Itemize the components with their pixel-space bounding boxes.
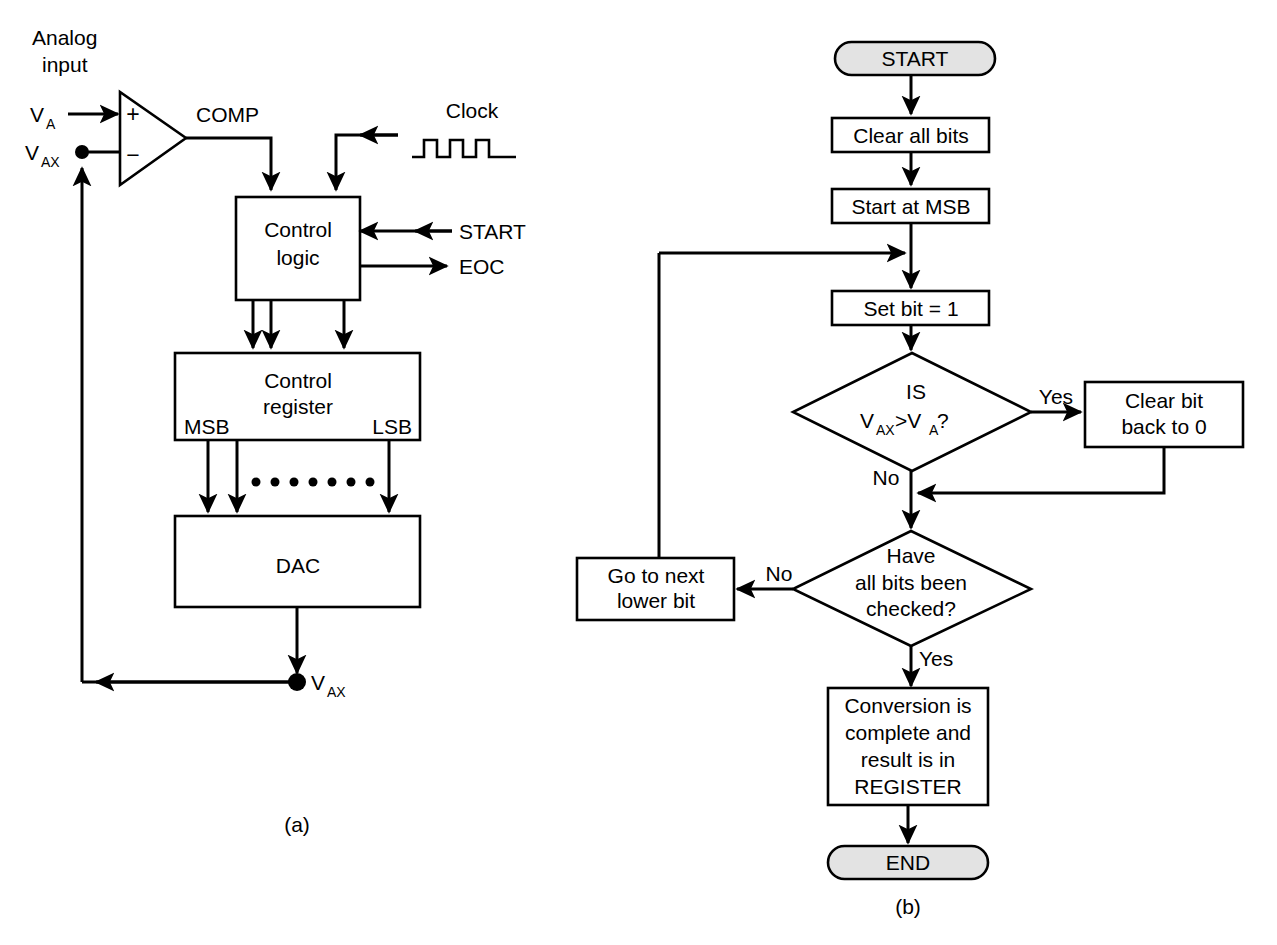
svg-text:>V: >V xyxy=(895,409,921,432)
flow-end-label: END xyxy=(886,851,930,874)
clock-input-wire xyxy=(336,135,398,190)
flow-conversion-line1: Conversion is xyxy=(844,694,971,717)
flow-clear-bit-line1: Clear bit xyxy=(1125,389,1203,412)
svg-text:V: V xyxy=(860,409,874,432)
vax-junction-dot xyxy=(75,145,89,159)
vax-output-label: V AX xyxy=(311,671,346,700)
figure-root: Analog input V A V AX + − COMP Clock xyxy=(0,0,1277,945)
analog-input-label-line1: Analog xyxy=(32,26,97,49)
svg-text:V: V xyxy=(25,141,39,164)
flow-decision-compare-line1: IS xyxy=(906,380,926,403)
flow-go-next-line2: lower bit xyxy=(617,589,695,612)
clock-label: Clock xyxy=(446,99,499,122)
flow-decision-allbits-line1: Have xyxy=(886,544,935,567)
comp-output-wire xyxy=(186,138,271,190)
flow-start-label: START xyxy=(882,47,949,70)
svg-text:V: V xyxy=(30,103,44,126)
control-register-label-line2: register xyxy=(263,395,333,418)
svg-text:A: A xyxy=(46,116,56,132)
control-register-label-line1: Control xyxy=(264,369,332,392)
va-label: V A xyxy=(30,103,56,132)
edge-decision2-no-label: No xyxy=(766,562,793,585)
msb-label: MSB xyxy=(184,415,230,438)
control-logic-label-line2: logic xyxy=(276,246,319,269)
vax-label: V AX xyxy=(25,141,60,170)
flow-go-next-line1: Go to next xyxy=(608,564,705,587)
flow-clear-all-bits-label: Clear all bits xyxy=(853,124,969,147)
flow-conversion-line4: REGISTER xyxy=(854,775,961,798)
panel-b: START Clear all bits Start at MSB Set bi… xyxy=(577,42,1243,918)
analog-input-label-line2: input xyxy=(42,53,88,76)
flow-decision-allbits-line2: all bits been xyxy=(855,571,967,594)
lsb-label: LSB xyxy=(372,415,412,438)
flow-conversion-line2: complete and xyxy=(845,721,971,744)
panel-b-caption: (b) xyxy=(895,895,921,918)
flow-set-bit-label: Set bit = 1 xyxy=(863,297,958,320)
edge-decision1-no-label: No xyxy=(873,466,900,489)
svg-text:AX: AX xyxy=(327,684,346,700)
comparator-minus-label: − xyxy=(126,142,139,168)
edge-decision1-yes-label: Yes xyxy=(1039,385,1073,408)
comparator-plus-label: + xyxy=(126,101,139,127)
eoc-label: EOC xyxy=(459,255,505,278)
bitline-ellipsis xyxy=(252,478,375,487)
panel-a-caption: (a) xyxy=(284,813,310,836)
control-logic-label-line1: Control xyxy=(264,218,332,241)
flow-clear-bit-line2: back to 0 xyxy=(1121,415,1206,438)
svg-text:V: V xyxy=(311,671,325,694)
dac-label: DAC xyxy=(276,554,320,577)
flow-start-at-msb-label: Start at MSB xyxy=(851,195,970,218)
flow-decision-allbits-line3: checked? xyxy=(866,597,956,620)
edge-decision2-yes-label: Yes xyxy=(919,647,953,670)
panel-a: Analog input V A V AX + − COMP Clock xyxy=(25,26,526,836)
edge-clearbit-rejoin xyxy=(918,447,1164,493)
flow-conversion-line3: result is in xyxy=(861,748,956,771)
svg-text:AX: AX xyxy=(41,154,60,170)
svg-text:AX: AX xyxy=(876,422,895,438)
adc-figure-svg: Analog input V A V AX + − COMP Clock xyxy=(0,0,1277,945)
comp-label: COMP xyxy=(196,103,259,126)
svg-text:?: ? xyxy=(937,409,949,432)
start-label: START xyxy=(459,220,526,243)
clock-waveform-icon xyxy=(412,140,516,157)
